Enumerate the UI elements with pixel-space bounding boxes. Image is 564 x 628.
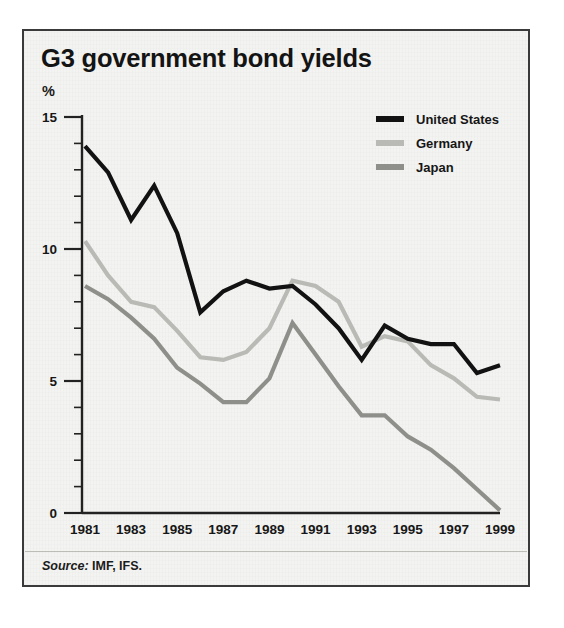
legend-label-japan: Japan xyxy=(416,160,454,175)
legend-label-united-states: United States xyxy=(416,112,499,127)
y-axis-tick-labels: 051015 xyxy=(42,110,58,521)
source-value: IMF, IFS. xyxy=(89,559,142,573)
x-tick-label: 1995 xyxy=(393,522,424,537)
x-tick-label: 1991 xyxy=(301,522,332,537)
chart-legend: United StatesGermanyJapan xyxy=(376,112,499,175)
screenshot-page: G3 government bond yields % 051015 19811… xyxy=(0,0,564,628)
y-tick-label: 5 xyxy=(49,374,57,389)
x-tick-label: 1983 xyxy=(116,522,147,537)
y-tick-label: 15 xyxy=(42,110,58,125)
x-tick-label: 1989 xyxy=(254,522,284,537)
x-tick-label: 1981 xyxy=(70,522,101,537)
line-chart-plot: 051015 198119831985198719891991199319951… xyxy=(24,31,528,585)
y-axis-major-ticks xyxy=(64,117,82,513)
legend-label-germany: Germany xyxy=(416,136,473,151)
x-tick-label: 1987 xyxy=(208,522,238,537)
x-tick-label: 1985 xyxy=(162,522,193,537)
source-divider xyxy=(25,551,527,552)
series-line-united-states xyxy=(85,146,500,373)
y-tick-label: 0 xyxy=(49,506,57,521)
data-series-group xyxy=(85,146,500,510)
x-tick-label: 1993 xyxy=(347,522,378,537)
x-tick-label: 1997 xyxy=(439,522,469,537)
source-note: Source: IMF, IFS. xyxy=(42,559,142,573)
y-tick-label: 10 xyxy=(42,242,57,257)
x-axis-tick-labels: 1981198319851987198919911993199519971999 xyxy=(70,522,515,537)
x-tick-label: 1999 xyxy=(485,522,515,537)
series-line-japan xyxy=(85,286,500,510)
source-keyword: Source: xyxy=(42,559,89,573)
chart-figure: G3 government bond yields % 051015 19811… xyxy=(22,29,530,587)
